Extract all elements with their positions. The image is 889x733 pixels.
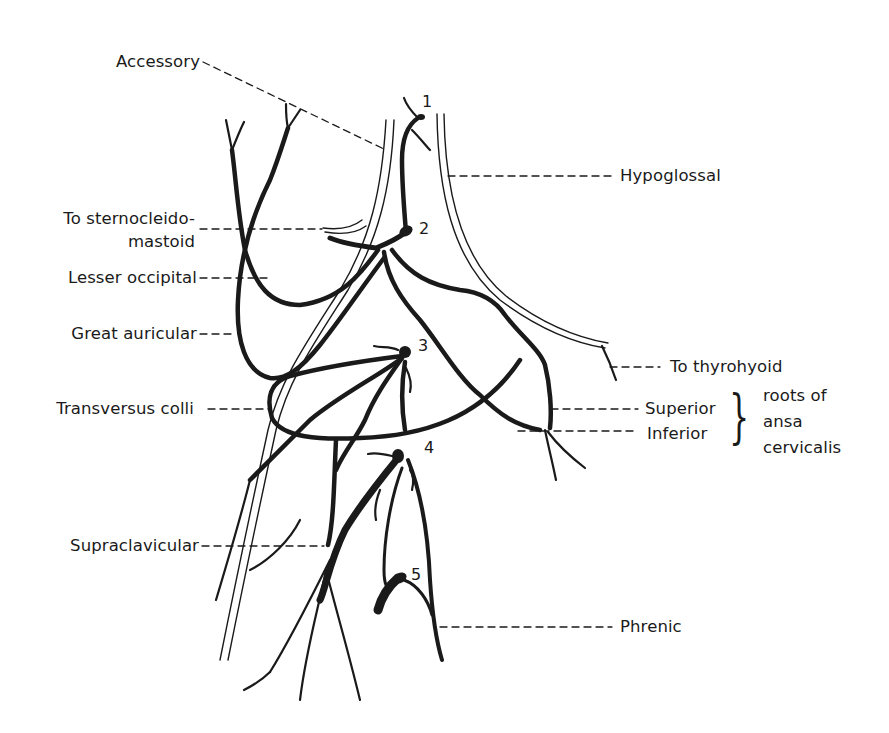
label-great-auricular: Great auricular [71, 324, 197, 344]
root-number-5: 5 [411, 566, 421, 584]
label-to-thyrohyoid: To thyrohyoid [670, 357, 783, 377]
hypoglossal-nerve [437, 114, 608, 348]
label-lesser-occipital: Lesser occipital [68, 268, 197, 288]
brace-roots-of-ansa: } [729, 388, 749, 446]
label-phrenic: Phrenic [620, 617, 682, 637]
root-number-2: 2 [419, 220, 429, 238]
label-supraclavicular: Supraclavicular [70, 536, 199, 556]
accessory-nerve [220, 120, 394, 660]
label-hypoglossal: Hypoglossal [620, 166, 721, 186]
cervical-plexus-figure: Accessory Hypoglossal To sternocleido- m… [0, 0, 889, 733]
label-ansa: ansa [763, 412, 803, 432]
label-to-sternocleidomastoid-2: mastoid [128, 232, 195, 252]
label-to-sternocleidomastoid-1: To sternocleido- [63, 209, 195, 229]
label-roots-of: roots of [763, 386, 827, 406]
plexus-main [232, 118, 551, 660]
label-accessory: Accessory [116, 52, 200, 72]
root-number-1: 1 [422, 93, 432, 111]
label-transversus-colli: Transversus colli [56, 399, 194, 419]
label-superior-root: Superior [645, 399, 716, 419]
plexus-branches [216, 98, 616, 700]
label-inferior-root: Inferior [647, 424, 707, 444]
label-cervicalis: cervicalis [763, 438, 841, 458]
root-number-3: 3 [418, 337, 428, 355]
root-number-4: 4 [424, 439, 434, 457]
